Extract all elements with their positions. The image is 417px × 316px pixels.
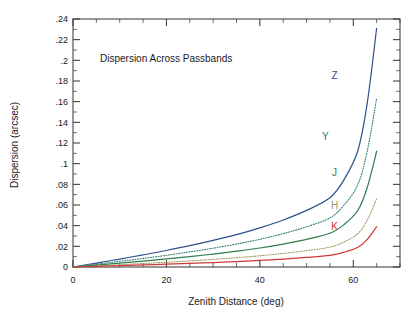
y-tick-label: 0 (63, 262, 68, 272)
y-tick-label: .18 (55, 76, 68, 86)
series-label-z: Z (332, 70, 338, 81)
y-tick-label: .06 (55, 200, 68, 210)
y-tick-label: .08 (55, 180, 68, 190)
dispersion-line-chart: 0.02.04.06.08.1.12.14.16.18.2.22.24 0204… (0, 0, 417, 316)
y-tick-label: .1 (60, 159, 68, 169)
x-axis-tick-labels: 0204060 (70, 275, 358, 285)
y-tick-label: .12 (55, 138, 68, 148)
y-tick-label: .22 (55, 35, 68, 45)
y-tick-label: .2 (60, 56, 68, 66)
series-label-h: H (331, 200, 338, 211)
x-axis-title: Zenith Distance (deg) (188, 296, 284, 307)
series-labels: ZYJHK (322, 70, 338, 232)
series-label-y: Y (322, 131, 329, 142)
y-axis-title: Dispersion (arcsec) (9, 102, 20, 188)
y-tick-label: .24 (55, 14, 68, 24)
series-label-k: K (331, 221, 338, 232)
x-tick-label: 0 (70, 275, 75, 285)
x-tick-label: 20 (161, 275, 171, 285)
y-tick-label: .16 (55, 97, 68, 107)
series-curve-y (73, 99, 377, 267)
y-tick-label: .02 (55, 242, 68, 252)
chart-annotation: Dispersion Across Passbands (100, 53, 232, 64)
series-label-j: J (332, 167, 337, 178)
chart-figure: 0.02.04.06.08.1.12.14.16.18.2.22.24 0204… (0, 0, 417, 316)
y-tick-label: .04 (55, 221, 68, 231)
y-axis-tick-labels: 0.02.04.06.08.1.12.14.16.18.2.22.24 (55, 14, 68, 272)
x-tick-label: 40 (255, 275, 265, 285)
y-tick-label: .14 (55, 118, 68, 128)
x-tick-label: 60 (348, 275, 358, 285)
